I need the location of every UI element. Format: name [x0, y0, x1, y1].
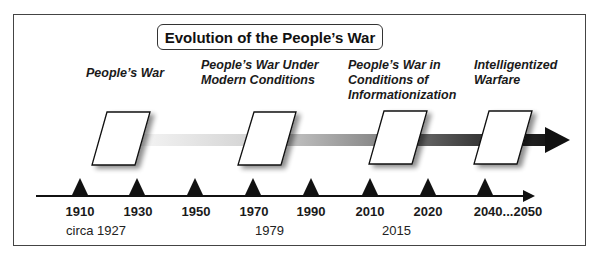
- marker-triangle-icon: [245, 178, 261, 195]
- era-stage-box: [92, 112, 150, 165]
- timeline-axis: [36, 178, 535, 202]
- marker-triangle-icon: [187, 178, 203, 195]
- marker-triangle-icon: [129, 178, 145, 195]
- era-stage-box: [369, 111, 427, 164]
- year-label: 1950: [182, 204, 211, 219]
- marker-triangle-icon: [72, 178, 88, 195]
- marker-triangle-icon: [477, 178, 493, 195]
- year-label: 1990: [297, 204, 326, 219]
- year-label: 2010: [356, 204, 385, 219]
- marker-triangle-icon: [303, 178, 319, 195]
- milestone-label: circa 1927: [66, 223, 126, 238]
- year-label: 2040...2050: [474, 204, 543, 219]
- milestone-label: 1979: [255, 223, 284, 238]
- timeline-markers: [72, 178, 493, 195]
- year-label: 1930: [124, 204, 153, 219]
- year-label: 1910: [66, 204, 95, 219]
- era-stage-box: [238, 112, 296, 165]
- milestone-label: 2015: [382, 223, 411, 238]
- era-stage-box: [474, 111, 532, 164]
- year-label: 2020: [414, 204, 443, 219]
- marker-triangle-icon: [362, 178, 378, 195]
- marker-triangle-icon: [420, 178, 436, 195]
- year-label: 1970: [240, 204, 269, 219]
